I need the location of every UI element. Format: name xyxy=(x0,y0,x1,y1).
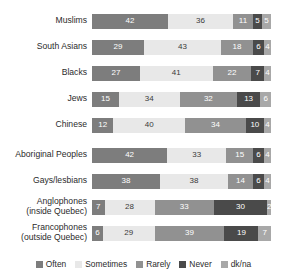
bar-segment: 15 xyxy=(92,92,119,107)
bar-segment: 7 xyxy=(92,200,105,215)
bar-segment: 27 xyxy=(92,66,140,81)
bar-segment: 6 xyxy=(253,174,264,189)
bar-row: Chinese124034104 xyxy=(0,115,287,135)
bar-segment: 29 xyxy=(103,226,155,241)
bar-segment: 40 xyxy=(113,118,185,133)
bar-segment: 4 xyxy=(264,148,271,163)
bar-track: 72833302 xyxy=(92,200,271,215)
bar-row: Gays/lesbians38381464 xyxy=(0,171,287,191)
legend-item[interactable]: Rarely xyxy=(136,259,170,269)
bar-segment: 42 xyxy=(92,14,168,29)
bar-segment: 42 xyxy=(92,148,167,163)
bar-segment: 7 xyxy=(251,66,263,81)
bar-row-label: Jews xyxy=(0,94,92,104)
legend-label: Sometimes xyxy=(85,259,127,269)
bar-row-label: South Asians xyxy=(0,42,92,52)
bar-segment: 29 xyxy=(92,40,144,55)
bar-segment: 10 xyxy=(246,118,264,133)
bar-track: 42331564 xyxy=(92,148,271,163)
bar-track: 124034104 xyxy=(92,118,271,133)
bar-segment: 4 xyxy=(264,174,271,189)
legend-item[interactable]: Often xyxy=(36,259,66,269)
legend-swatch-icon xyxy=(75,261,82,268)
bar-segment: 34 xyxy=(119,92,180,107)
bar-segment: 34 xyxy=(185,118,246,133)
bar-segment: 39 xyxy=(155,226,225,241)
bar-track: 153432136 xyxy=(92,92,271,107)
bar-row-label: Muslims xyxy=(0,16,92,26)
legend-item[interactable]: Never xyxy=(179,259,211,269)
bar-segment: 15 xyxy=(226,148,253,163)
legend-swatch-icon xyxy=(179,261,186,268)
bar-segment: 7 xyxy=(258,226,271,241)
bar-row: Muslims42361155 xyxy=(0,11,287,31)
bar-segment: 6 xyxy=(260,92,271,107)
bar-segment: 38 xyxy=(92,174,160,189)
bar-segment: 32 xyxy=(180,92,237,107)
bar-segment: 11 xyxy=(233,14,253,29)
bar-segment: 36 xyxy=(168,14,233,29)
bar-track: 38381464 xyxy=(92,174,271,189)
legend-swatch-icon xyxy=(221,261,228,268)
bar-segment: 4 xyxy=(264,118,271,133)
bar-track: 62939197 xyxy=(92,226,271,241)
chart-legend: OftenSometimesRarelyNeverdk/na xyxy=(0,259,287,269)
bar-segment: 33 xyxy=(155,200,214,215)
bar-segment: 22 xyxy=(213,66,252,81)
bar-segment: 2 xyxy=(267,200,271,215)
legend-label: Rarely xyxy=(146,259,170,269)
legend-swatch-icon xyxy=(36,261,43,268)
bar-row-label: Aboriginal Peoples xyxy=(0,150,92,160)
legend-label: Often xyxy=(46,259,66,269)
bar-segment: 33 xyxy=(167,148,226,163)
bar-track: 29431864 xyxy=(92,40,271,55)
bar-row-label: Blacks xyxy=(0,68,92,78)
bar-segment: 41 xyxy=(140,66,213,81)
bar-segment: 6 xyxy=(253,148,264,163)
bar-track: 42361155 xyxy=(92,14,271,29)
bar-segment: 4 xyxy=(264,40,271,55)
stacked-bar-chart: Muslims42361155South Asians29431864Black… xyxy=(0,0,287,275)
legend-item[interactable]: dk/na xyxy=(221,259,252,269)
bar-segment: 6 xyxy=(92,226,103,241)
legend-swatch-icon xyxy=(136,261,143,268)
bar-segment: 4 xyxy=(264,66,271,81)
bar-row: Anglophones (inside Quebec)72833302 xyxy=(0,197,287,217)
legend-item[interactable]: Sometimes xyxy=(75,259,127,269)
legend-label: Never xyxy=(189,259,211,269)
bar-segment: 28 xyxy=(105,200,155,215)
bar-row-label: Francophones (outside Quebec) xyxy=(0,223,92,242)
bar-row-label: Anglophones (inside Quebec) xyxy=(0,197,92,216)
bar-segment: 38 xyxy=(160,174,228,189)
bar-segment: 5 xyxy=(253,14,262,29)
bar-segment: 14 xyxy=(228,174,253,189)
bar-row: South Asians29431864 xyxy=(0,37,287,57)
bar-segment: 18 xyxy=(221,40,253,55)
chart-plot-area: Muslims42361155South Asians29431864Black… xyxy=(0,11,287,249)
bar-segment: 13 xyxy=(237,92,260,107)
bar-row-label: Gays/lesbians xyxy=(0,176,92,186)
bar-segment: 6 xyxy=(253,40,264,55)
bar-row-label: Chinese xyxy=(0,120,92,130)
legend-label: dk/na xyxy=(231,259,252,269)
bar-track: 27412274 xyxy=(92,66,271,81)
bar-segment: 12 xyxy=(92,118,113,133)
bar-segment: 30 xyxy=(214,200,268,215)
bar-row: Blacks27412274 xyxy=(0,63,287,83)
bar-row: Francophones (outside Quebec)62939197 xyxy=(0,223,287,243)
bar-segment: 5 xyxy=(262,14,271,29)
bar-segment: 19 xyxy=(224,226,258,241)
bar-row: Jews153432136 xyxy=(0,89,287,109)
bar-segment: 43 xyxy=(144,40,221,55)
bar-row: Aboriginal Peoples42331564 xyxy=(0,145,287,165)
